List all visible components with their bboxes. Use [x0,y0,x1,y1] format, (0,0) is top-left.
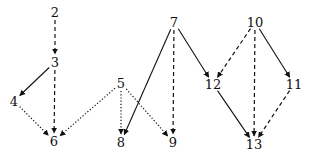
edge-10-to-11 [259,29,289,77]
edge-3-to-6 [54,70,55,133]
node-3: 3 [51,55,59,70]
edge-5-to-9 [126,89,167,136]
node-11: 11 [286,77,303,92]
edge-10-to-13 [254,30,255,136]
edge-7-to-8 [124,29,171,134]
directed-graph: 2346589712101113 [0,0,311,158]
node-6: 6 [50,134,58,149]
node-8: 8 [117,135,125,150]
node-5: 5 [117,76,125,91]
node-2: 2 [51,5,59,20]
node-7: 7 [170,15,178,30]
node-13: 13 [246,137,263,152]
edge-7-to-12 [178,29,208,77]
node-10: 10 [247,15,264,30]
edge-5-to-6 [60,88,115,136]
edge-11-to-13 [258,91,289,138]
edge-12-to-13 [218,91,250,138]
edge-3-to-4 [20,68,49,96]
edge-7-to-9 [173,30,174,134]
node-12: 12 [205,77,222,92]
node-4: 4 [10,94,18,109]
node-9: 9 [169,135,177,150]
edge-layer [20,20,290,137]
edge-4-to-6 [20,107,49,136]
edge-10-to-12 [217,29,250,78]
